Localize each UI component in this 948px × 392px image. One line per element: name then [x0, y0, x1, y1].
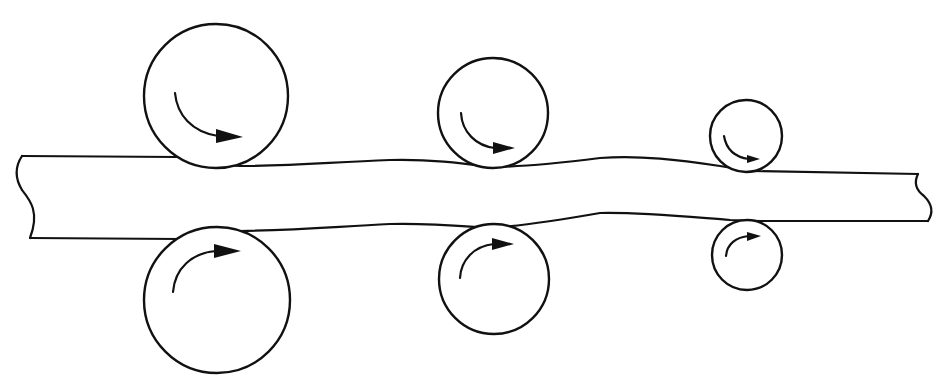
- top-roll-small: [710, 100, 782, 172]
- roll-pair-2: [438, 58, 549, 334]
- top-roll-large: [144, 24, 288, 168]
- rolling-mill-diagram: [0, 0, 948, 392]
- strip-left-broken-end: [17, 156, 34, 238]
- roll-pair-1: [144, 24, 290, 373]
- roll-pair-3: [710, 100, 782, 290]
- strip-right-broken-end: [916, 174, 931, 221]
- bottom-roll-small: [712, 220, 782, 290]
